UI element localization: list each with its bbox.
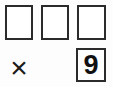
digit-value: 9: [83, 52, 98, 79]
answer-box-2[interactable]: [41, 5, 69, 40]
answer-box-1[interactable]: [5, 5, 33, 40]
worksheet-canvas: × 9: [0, 0, 113, 87]
multiplication-sign-icon: ×: [4, 52, 34, 84]
answer-box-3[interactable]: [77, 5, 106, 40]
digit-answer-box[interactable]: 9: [76, 48, 106, 82]
